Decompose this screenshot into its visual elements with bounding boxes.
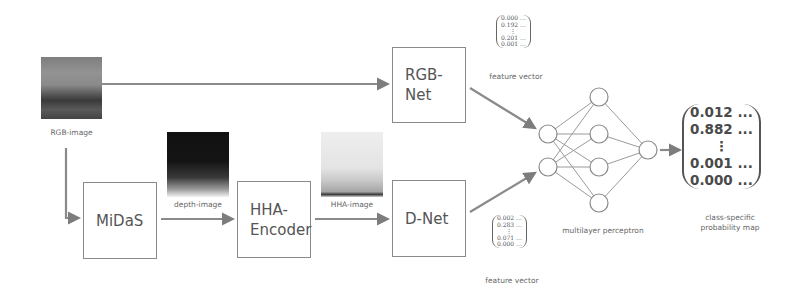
hha-image-thumbnail — [321, 132, 383, 197]
rgb-net-block: RGB-Net — [392, 47, 466, 123]
d-net-block: D-Net — [392, 180, 466, 257]
mlp-hidden-node — [590, 194, 608, 212]
midas-label: MiDaS — [96, 211, 143, 231]
mlp-label: multilayer perceptron — [548, 226, 658, 235]
feature-vector-top-label: feature vector — [478, 72, 554, 81]
feature-vector-bottom-label: feature vector — [474, 276, 550, 285]
feature-vector-bottom: 0.002 ... 0.283 ... ⋮ 0.071 ... 0.000 ..… — [492, 215, 527, 248]
probability-vector: 0.012 ... 0.882 ... ⋮ 0.001 ... 0.000 ..… — [682, 104, 761, 189]
vector-value: 0.000 ... — [497, 241, 522, 248]
feature-vector-top: 0.000 ... 0.192 ... ⋮ 0.201 ... 0.001 ..… — [496, 15, 531, 48]
arrow-rgb-to-midas — [66, 148, 79, 218]
mlp-nodes — [539, 88, 657, 212]
d-net-label: D-Net — [405, 209, 448, 229]
mlp-output-node — [639, 141, 657, 159]
hha-encoder-block: HHA- Encoder — [237, 181, 311, 258]
mlp-hidden-node — [590, 125, 608, 143]
arrow-dnet-to-mlp — [470, 173, 535, 212]
probability-value: 0.001 ... — [690, 155, 753, 172]
probability-map-label: class-specific probability map — [690, 213, 770, 233]
probability-value: 0.882 ... — [690, 121, 753, 138]
hha-encoder-label-line2: Encoder — [250, 220, 311, 240]
probability-value: 0.012 ... — [690, 104, 753, 121]
mlp-input-node — [539, 158, 557, 176]
probability-map-label-line2: probability map — [690, 223, 770, 233]
depth-image-thumbnail — [167, 132, 229, 197]
arrow-rgbnet-to-mlp — [470, 88, 535, 128]
mlp-edges — [548, 97, 648, 203]
vector-value: 0.001 ... — [501, 41, 526, 48]
hha-encoder-label-line1: HHA- — [250, 200, 311, 220]
rgb-net-label: RGB-Net — [405, 65, 465, 105]
rgb-image-label: RGB-image — [41, 128, 102, 137]
probability-map-label-line1: class-specific — [690, 213, 770, 223]
mlp-input-node — [539, 125, 557, 143]
hha-image-label: HHA-image — [314, 200, 390, 209]
rgb-image-thumbnail — [41, 57, 102, 119]
depth-image-label: depth-image — [160, 200, 236, 209]
mlp-hidden-node — [590, 88, 608, 106]
vector-ellipsis: ⋮ — [690, 138, 753, 155]
probability-value: 0.000 ... — [690, 172, 753, 189]
mlp-hidden-node — [590, 158, 608, 176]
midas-block: MiDaS — [83, 182, 157, 259]
